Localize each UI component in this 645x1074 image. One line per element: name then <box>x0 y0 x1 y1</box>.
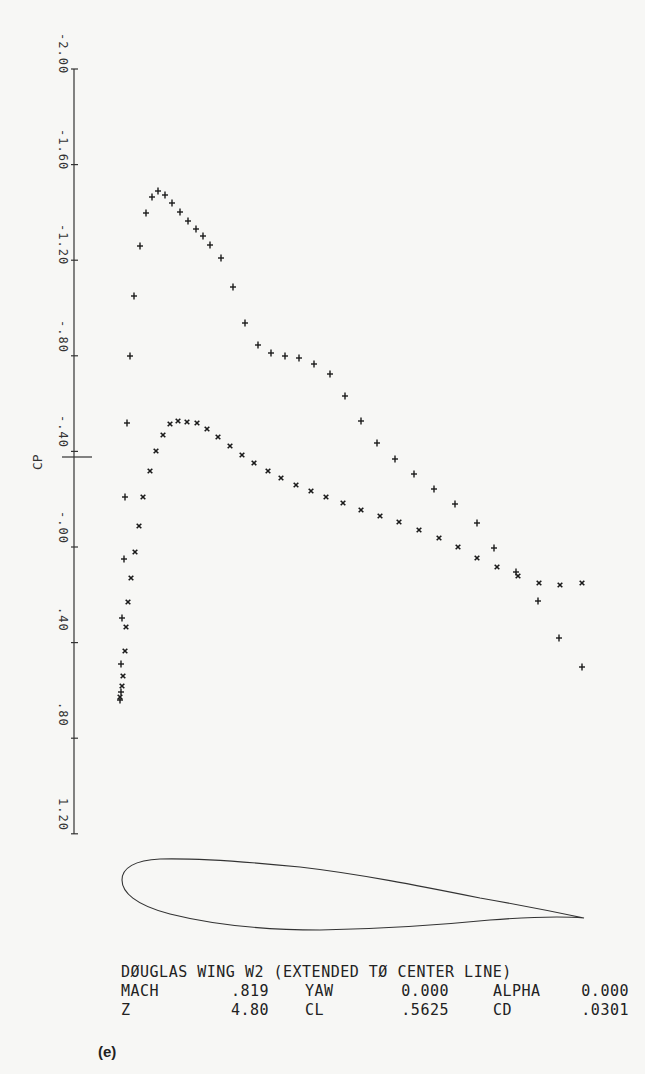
z-value: 4.80 <box>207 1001 269 1020</box>
x-marker <box>195 421 200 426</box>
cd-value: .0301 <box>577 1001 629 1020</box>
plus-marker <box>122 494 128 501</box>
y-tick-label: -.80 <box>56 320 70 353</box>
x-marker <box>228 444 233 449</box>
x-marker <box>185 420 190 425</box>
plus-marker <box>374 440 380 447</box>
x-marker <box>168 422 173 427</box>
plus-marker <box>200 233 206 240</box>
x-marker <box>294 483 299 488</box>
plus-marker <box>452 501 458 508</box>
cl-value: .5625 <box>387 1001 449 1020</box>
x-marker <box>475 556 480 561</box>
x-marker <box>266 469 271 474</box>
x-marker <box>279 476 284 481</box>
x-marker <box>537 581 542 586</box>
x-marker <box>120 684 125 689</box>
plus-marker <box>169 200 175 207</box>
x-marker <box>176 419 181 424</box>
plus-marker <box>491 545 497 552</box>
alpha-label: ALPHA <box>449 982 577 1001</box>
x-marker <box>378 514 383 519</box>
x-marker <box>126 600 131 605</box>
plus-marker <box>358 418 364 425</box>
plus-marker <box>124 420 130 427</box>
info-row-1: MACH .819 YAW 0.000 ALPHA 0.000 <box>121 982 629 1001</box>
yaw-label: YAW <box>269 982 387 1001</box>
cp-chart <box>0 0 645 1074</box>
y-tick-label: -.00 <box>56 511 70 544</box>
plus-marker <box>282 353 288 360</box>
plus-marker <box>155 188 161 195</box>
x-marker <box>580 581 585 586</box>
plus-marker <box>242 320 248 327</box>
airfoil-outline <box>122 859 584 930</box>
plus-marker <box>177 209 183 216</box>
x-marker <box>148 469 153 474</box>
x-marker <box>129 576 134 581</box>
plus-marker <box>411 471 417 478</box>
x-marker <box>123 649 128 654</box>
y-tick-label: -.40 <box>56 415 70 448</box>
plus-marker <box>149 194 155 201</box>
mach-value: .819 <box>207 982 269 1001</box>
yaw-value: 0.000 <box>387 982 449 1001</box>
figure-label: (e) <box>98 1043 116 1060</box>
x-marker <box>437 536 442 541</box>
x-marker <box>558 583 563 588</box>
x-marker <box>417 528 422 533</box>
plus-marker <box>268 350 274 357</box>
plus-marker <box>255 342 261 349</box>
x-marker <box>252 461 257 466</box>
cd-label: CD <box>449 1001 577 1020</box>
x-marker <box>154 449 159 454</box>
x-marker <box>205 427 210 432</box>
plus-marker <box>143 210 149 217</box>
plus-marker <box>342 393 348 400</box>
x-marker <box>240 453 245 458</box>
plus-marker <box>162 192 168 199</box>
plus-marker <box>230 284 236 291</box>
lower-surface-markers <box>118 419 585 700</box>
plus-marker <box>218 255 224 262</box>
plus-marker <box>311 361 317 368</box>
x-marker <box>161 433 166 438</box>
cl-label: CL <box>269 1001 387 1020</box>
x-marker <box>137 524 142 529</box>
plus-marker <box>119 615 125 622</box>
x-marker <box>456 545 461 550</box>
y-tick-label: -1.60 <box>56 129 70 170</box>
plus-marker <box>127 353 133 360</box>
x-marker <box>133 550 138 555</box>
y-axis-label: CP <box>30 454 45 470</box>
x-marker <box>124 625 129 630</box>
x-marker <box>324 495 329 500</box>
plus-marker <box>296 355 302 362</box>
x-marker <box>216 435 221 440</box>
plus-marker <box>579 664 585 671</box>
plus-marker <box>121 556 127 563</box>
x-marker <box>397 520 402 525</box>
plus-marker <box>327 371 333 378</box>
run-info-panel: DØUGLAS WING W2 (EXTENDED TØ CENTER LINE… <box>121 963 629 1020</box>
info-row-2: Z 4.80 CL .5625 CD .0301 <box>121 1001 629 1020</box>
upper-surface-markers <box>117 188 585 704</box>
x-marker <box>516 574 521 579</box>
plus-marker <box>556 635 562 642</box>
y-tick-label: .40 <box>56 607 70 632</box>
plus-marker <box>118 689 124 696</box>
plus-marker <box>185 218 191 225</box>
y-tick-label: 1.20 <box>56 798 70 831</box>
run-title: DØUGLAS WING W2 (EXTENDED TØ CENTER LINE… <box>121 963 629 982</box>
plus-marker <box>207 242 213 249</box>
x-marker <box>359 508 364 513</box>
plus-marker <box>431 486 437 493</box>
alpha-value: 0.000 <box>577 982 629 1001</box>
plus-marker <box>392 456 398 463</box>
y-tick-label: .80 <box>56 702 70 727</box>
x-marker <box>341 501 346 506</box>
plus-marker <box>137 243 143 250</box>
mach-label: MACH <box>121 982 207 1001</box>
x-marker <box>495 565 500 570</box>
plus-marker <box>535 598 541 605</box>
